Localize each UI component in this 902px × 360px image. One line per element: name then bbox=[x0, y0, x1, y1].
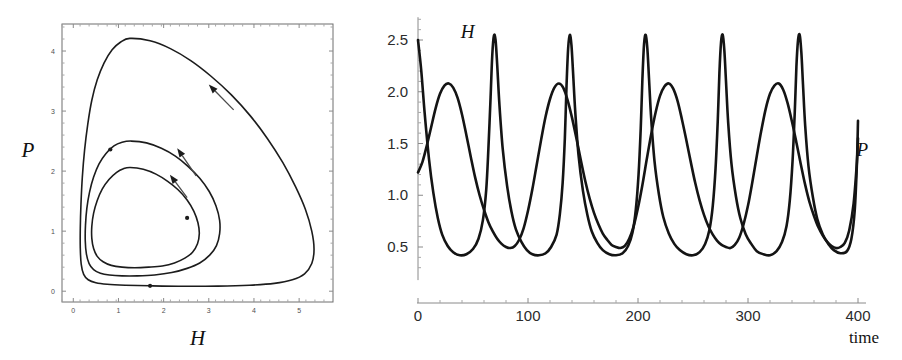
phase-y-tick-label: 4 bbox=[51, 48, 55, 55]
phase-y-tick-label: 0 bbox=[51, 288, 55, 295]
phase-y-tick-label: 1 bbox=[51, 228, 55, 235]
time-y-tick-label: 1.0 bbox=[387, 186, 408, 203]
orbit-curve-orbit-inner bbox=[92, 167, 200, 267]
series-label-H: H bbox=[460, 21, 476, 42]
time-y-tick-label: 1.5 bbox=[387, 135, 408, 152]
time-x-tick-label: 0 bbox=[414, 307, 422, 324]
orbit-curve-orbit-middle bbox=[85, 141, 220, 276]
phase-x-axis-title: H bbox=[189, 326, 207, 350]
phase-x-tick-labels: 012345 bbox=[71, 307, 301, 314]
time-y-tick-label: 2.5 bbox=[387, 31, 408, 48]
time-y-tick-label: 2.0 bbox=[387, 83, 408, 100]
time-x-tick-label: 300 bbox=[735, 307, 760, 324]
phase-portrait-chart: 012345 01234 H P bbox=[0, 0, 400, 360]
phase-y-tick-labels: 01234 bbox=[51, 48, 55, 295]
initial-condition-middle-dot bbox=[108, 147, 112, 151]
phase-x-tick-label: 1 bbox=[117, 307, 121, 314]
orbit-curve-orbit-outer bbox=[80, 38, 314, 286]
phase-annotations bbox=[108, 85, 233, 288]
time-series-chart: 0100200300400 0.51.01.52.02.5 HP time bbox=[380, 0, 902, 360]
phase-y-tick-label: 3 bbox=[51, 108, 55, 115]
initial-condition-outer-dot bbox=[148, 284, 152, 288]
phase-x-tick-label: 4 bbox=[252, 307, 256, 314]
time-x-tick-labels: 0100200300400 bbox=[414, 307, 871, 324]
phase-portrait-panel: 012345 01234 H P bbox=[0, 0, 400, 360]
phase-x-tick-label: 0 bbox=[71, 307, 75, 314]
figure-root: 012345 01234 H P 0100200300400 0.51.01.5… bbox=[0, 0, 902, 360]
time-y-tick-labels: 0.51.01.52.02.5 bbox=[387, 31, 408, 255]
flow-direction-middle-head bbox=[177, 148, 185, 157]
time-x-tick-label: 200 bbox=[625, 307, 650, 324]
series-label-P: P bbox=[856, 139, 869, 160]
phase-y-tick-label: 2 bbox=[51, 168, 55, 175]
time-x-tick-label: 400 bbox=[845, 307, 870, 324]
time-x-tick-label: 100 bbox=[515, 307, 540, 324]
time-x-axis-title: time bbox=[849, 328, 879, 347]
phase-y-axis-title: P bbox=[21, 138, 35, 162]
phase-orbit-curves bbox=[80, 38, 314, 286]
time-series-panel: 0100200300400 0.51.01.52.02.5 HP time bbox=[380, 0, 902, 360]
time-curve-H bbox=[418, 34, 858, 255]
time-y-tick-label: 0.5 bbox=[387, 238, 408, 255]
phase-x-tick-label: 5 bbox=[297, 307, 301, 314]
time-series-curves bbox=[418, 34, 858, 255]
flow-direction-inner-head bbox=[170, 175, 178, 184]
phase-x-tick-label: 3 bbox=[207, 307, 211, 314]
phase-x-tick-label: 2 bbox=[162, 307, 166, 314]
initial-condition-inner-dot bbox=[185, 216, 189, 220]
flow-direction-middle-shaft bbox=[182, 156, 196, 176]
